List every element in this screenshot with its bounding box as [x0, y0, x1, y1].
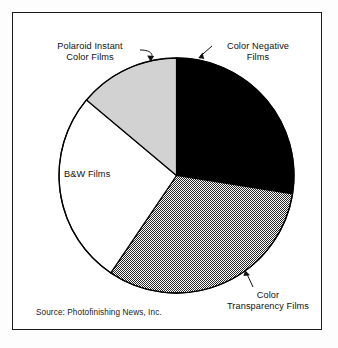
slice-label-polaroid-line2: Color Films [36, 52, 144, 63]
source-note: Source: Photofinishing News, Inc. [36, 307, 162, 318]
slice-label-color-transparency: Color Transparency Films [208, 290, 328, 313]
slice-label-polaroid: Polaroid Instant Color Films [36, 41, 144, 64]
slice-label-polaroid-line1: Polaroid Instant [36, 41, 144, 52]
slice-label-color-negative: Color Negative Films [210, 41, 306, 64]
slice-label-bw: B&W Films [64, 169, 148, 180]
slice-label-color-negative-line1: Color Negative [210, 41, 306, 52]
slice-label-color-negative-line2: Films [210, 52, 306, 63]
slice-label-bw-line1: B&W Films [64, 169, 148, 180]
slice-label-color-transparency-line1: Color [208, 290, 328, 301]
slice-label-color-transparency-line2: Transparency Films [208, 301, 328, 312]
pie-slice-color-negative[interactable] [177, 58, 294, 194]
pie-chart-figure: Polaroid Instant Color Films Color Negat… [0, 0, 338, 348]
